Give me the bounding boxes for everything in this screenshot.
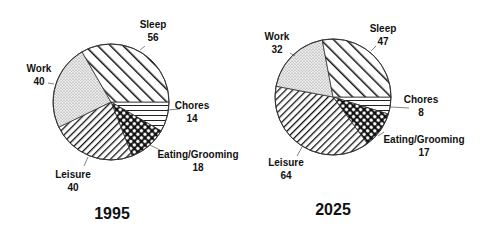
slice-label-value: 40 [33, 76, 45, 87]
pie-year-title: 1995 [94, 205, 130, 222]
slice-label-value: 8 [418, 107, 424, 118]
slice-label-name: Eating/Grooming [157, 149, 238, 160]
leader-line [84, 157, 88, 166]
leader-line [297, 147, 302, 156]
slice-label-value: 18 [192, 162, 204, 173]
pie-slice-sleep [322, 39, 391, 97]
slice-label-value: 47 [377, 36, 389, 47]
slice-label-name: Work [27, 63, 52, 74]
slice-label-value: 14 [186, 113, 198, 124]
chart-canvas: Chores14Eating/Grooming18Leisure40Work40… [0, 0, 487, 237]
slice-label-name: Chores [175, 100, 210, 111]
slice-label-value: 17 [418, 147, 430, 158]
slice-label-value: 32 [271, 44, 283, 55]
pie-2025: Chores8Eating/Grooming17Leisure64Work32S… [265, 23, 465, 218]
leader-line [391, 107, 409, 108]
slice-label-name: Leisure [55, 169, 91, 180]
leader-line [140, 46, 145, 50]
pie-chart-comparison: Chores14Eating/Grooming18Leisure40Work40… [0, 0, 487, 237]
slice-label-name: Chores [404, 94, 439, 105]
slice-label-value: 40 [67, 182, 79, 193]
pie-1995: Chores14Eating/Grooming18Leisure40Work40… [27, 19, 239, 222]
slice-label-name: Sleep [370, 23, 397, 34]
pie-year-title: 2025 [315, 201, 351, 218]
slice-label-value: 64 [280, 170, 292, 181]
slice-label-value: 56 [147, 32, 159, 43]
slice-label-name: Work [265, 31, 290, 42]
slice-label-name: Eating/Grooming [383, 134, 464, 145]
slice-label-name: Leisure [268, 157, 304, 168]
leader-line [371, 46, 376, 51]
slice-label-name: Sleep [140, 19, 167, 30]
leader-line [48, 83, 54, 84]
